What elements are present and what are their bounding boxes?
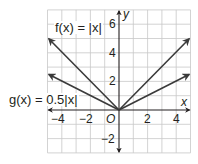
origin-label: O xyxy=(106,113,115,125)
x-tick-label: −2 xyxy=(79,113,93,125)
f-right-ray xyxy=(119,39,189,110)
y-tick-label: 4 xyxy=(109,47,116,59)
y-axis-label: y xyxy=(123,8,129,20)
g-right-ray xyxy=(119,75,189,111)
x-tick-label: 2 xyxy=(144,113,151,125)
x-axis-label: x xyxy=(181,96,187,108)
x-tick-label: 4 xyxy=(173,113,180,125)
g-label: g(x) = 0.5|x| xyxy=(8,93,79,106)
y-tick-label: 2 xyxy=(109,75,116,87)
f-label: f(x) = |x| xyxy=(54,21,103,34)
y-tick-label: −2 xyxy=(101,133,115,145)
x-tick-label: −4 xyxy=(51,113,65,125)
y-tick-label: 6 xyxy=(109,18,116,30)
